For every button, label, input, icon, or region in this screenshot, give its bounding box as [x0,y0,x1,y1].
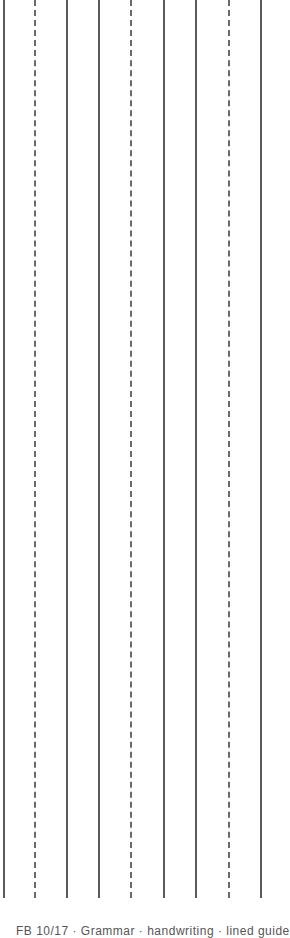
guide-line-solid [98,0,100,898]
guide-line-solid [260,0,262,898]
guide-line-solid [3,0,5,898]
guide-line-solid [163,0,165,898]
guide-line-solid [195,0,197,898]
guide-line-dashed [130,0,132,898]
guide-line-solid [66,0,68,898]
guide-line-dashed [228,0,230,898]
footer-caption: FB 10/17 · Grammar · handwriting · lined… [16,924,286,938]
guide-line-dashed [34,0,36,898]
